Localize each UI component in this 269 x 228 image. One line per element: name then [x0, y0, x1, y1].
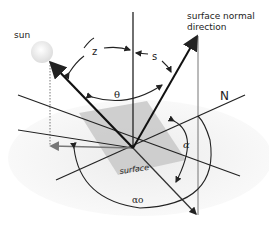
- sun-icon: [31, 41, 53, 63]
- label-surface-normal-1: surface normal: [187, 11, 255, 21]
- s-arc-lower: [162, 61, 171, 72]
- label-z: z: [92, 46, 97, 57]
- tilt-angle-arc: [136, 53, 148, 54]
- z-arc-upper: [104, 47, 130, 50]
- label-north: N: [220, 89, 229, 103]
- label-sun: sun: [14, 30, 30, 40]
- label-theta: θ: [114, 89, 120, 100]
- label-s: s: [152, 51, 157, 62]
- incidence-angle-arc: [92, 85, 162, 101]
- label-surface-normal-2: direction: [187, 22, 226, 32]
- solar-angle-diagram: sun surface normal direction z s θ N α α…: [0, 0, 269, 228]
- label-alpha: α: [183, 139, 190, 150]
- z-arc-lower: [69, 56, 84, 73]
- label-alpha-o: αo: [132, 195, 144, 205]
